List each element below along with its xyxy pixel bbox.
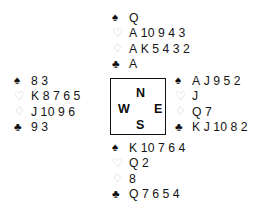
north-clubs-row: ♣ A: [112, 57, 190, 73]
heart-icon: ♡: [112, 28, 123, 40]
east-diamonds-cards: Q7: [186, 106, 212, 118]
hand-north: ♠ Q ♡ A10943 ♢ AK5432 ♣ A: [112, 10, 190, 72]
heart-icon: ♡: [112, 158, 123, 170]
heart-icon: ♡: [175, 91, 186, 103]
west-spades-cards: 83: [25, 75, 48, 87]
north-diamonds-cards: AK5432: [123, 43, 190, 55]
diamond-icon: ♢: [175, 106, 186, 118]
club-icon: ♣: [175, 122, 186, 134]
south-diamonds-cards: 8: [123, 173, 136, 185]
bridge-deal-diagram: ♠ Q ♡ A10943 ♢ AK5432 ♣ A ♠ 83 ♡ K8765 ♢…: [0, 0, 269, 213]
hand-west: ♠ 83 ♡ K8765 ♢ J1096 ♣ 93: [14, 73, 81, 135]
north-clubs-cards: A: [123, 58, 137, 70]
compass-box: N W E S: [110, 78, 166, 135]
west-hearts-cards: K8765: [25, 90, 81, 102]
hand-east: ♠ AJ952 ♡ J ♢ Q7 ♣ KJ1082: [175, 73, 248, 135]
south-hearts-row: ♡ Q2: [112, 156, 186, 172]
east-hearts-cards: J: [186, 90, 198, 102]
west-spades-row: ♠ 83: [14, 73, 81, 89]
north-hearts-row: ♡ A10943: [112, 26, 190, 42]
west-clubs-cards: 93: [25, 121, 48, 133]
compass-label-east: E: [154, 103, 162, 116]
east-diamonds-row: ♢ Q7: [175, 104, 248, 120]
spade-icon: ♠: [175, 75, 186, 87]
east-hearts-row: ♡ J: [175, 89, 248, 105]
compass-label-north: N: [136, 87, 145, 100]
compass-label-west: W: [118, 103, 130, 116]
south-spades-row: ♠ K10764: [112, 140, 186, 156]
west-clubs-row: ♣ 93: [14, 120, 81, 136]
north-spades-cards: Q: [123, 12, 139, 24]
east-clubs-row: ♣ KJ1082: [175, 120, 248, 136]
diamond-icon: ♢: [14, 106, 25, 118]
east-spades-cards: AJ952: [186, 75, 241, 87]
north-hearts-cards: A10943: [123, 27, 186, 39]
west-diamonds-cards: J1096: [25, 106, 75, 118]
club-icon: ♣: [112, 189, 123, 201]
spade-icon: ♠: [112, 12, 123, 24]
club-icon: ♣: [14, 122, 25, 134]
south-spades-cards: K10764: [123, 142, 186, 154]
east-clubs-cards: KJ1082: [186, 121, 248, 133]
heart-icon: ♡: [14, 91, 25, 103]
south-diamonds-row: ♢ 8: [112, 171, 186, 187]
south-hearts-cards: Q2: [123, 157, 149, 169]
compass-label-south: S: [136, 119, 144, 132]
diamond-icon: ♢: [112, 173, 123, 185]
west-hearts-row: ♡ K8765: [14, 89, 81, 105]
north-spades-row: ♠ Q: [112, 10, 190, 26]
hand-south: ♠ K10764 ♡ Q2 ♢ 8 ♣ Q7654: [112, 140, 186, 202]
north-diamonds-row: ♢ AK5432: [112, 41, 190, 57]
south-clubs-cards: Q7654: [123, 188, 180, 200]
spade-icon: ♠: [112, 142, 123, 154]
club-icon: ♣: [112, 59, 123, 71]
west-diamonds-row: ♢ J1096: [14, 104, 81, 120]
spade-icon: ♠: [14, 75, 25, 87]
south-clubs-row: ♣ Q7654: [112, 187, 186, 203]
diamond-icon: ♢: [112, 43, 123, 55]
east-spades-row: ♠ AJ952: [175, 73, 248, 89]
